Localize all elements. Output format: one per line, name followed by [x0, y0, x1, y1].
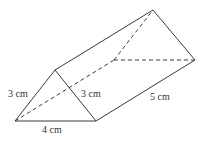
prism-figure: 3 cm 3 cm 4 cm 5 cm [0, 0, 204, 141]
bottom-right-length-edge [96, 60, 195, 121]
prism-diagram: 3 cm 3 cm 4 cm 5 cm [0, 0, 204, 141]
label-right-front-edge: 3 cm [81, 88, 101, 99]
back-right-edge [153, 10, 195, 60]
hidden-back-left-edge [114, 10, 153, 60]
top-ridge-edge [55, 10, 153, 70]
label-left-edge: 3 cm [8, 88, 28, 99]
label-base-edge: 4 cm [42, 124, 62, 135]
label-length-edge: 5 cm [150, 91, 170, 102]
